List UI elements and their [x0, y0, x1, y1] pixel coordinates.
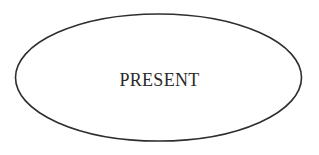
- diagram-canvas: PRESENT: [0, 0, 319, 155]
- node-label: PRESENT: [119, 70, 199, 90]
- present-node: PRESENT: [16, 14, 302, 141]
